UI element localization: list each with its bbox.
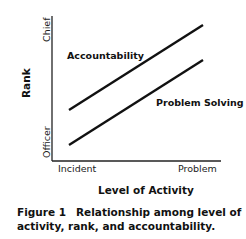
y-tick-officer: Officer (41, 126, 52, 158)
figure: Chief Officer Rank Accountability Proble… (0, 0, 246, 239)
x-axis-label: Level of Activity (98, 184, 194, 196)
x-tick-problem: Problem (178, 163, 217, 174)
figure-caption: Figure 1Relationship among level of acti… (17, 205, 243, 233)
y-tick-chief: Chief (41, 18, 52, 42)
caption-number: Figure 1 (17, 206, 66, 218)
chart-plot (0, 0, 246, 239)
y-axis-label: Rank (20, 68, 32, 98)
accountability-label: Accountability (67, 50, 144, 61)
problem-solving-label: Problem Solving (156, 97, 244, 108)
x-tick-incident: Incident (58, 163, 96, 174)
